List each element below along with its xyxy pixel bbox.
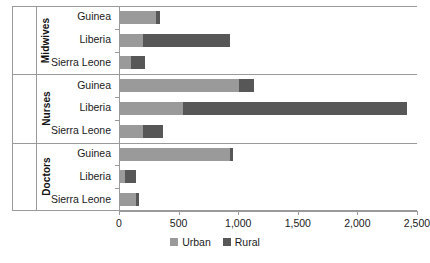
legend-label-urban: Urban — [182, 236, 211, 248]
category-label: Sierra Leone — [51, 57, 111, 68]
bar-row[interactable] — [119, 34, 230, 47]
bar-row[interactable] — [119, 125, 163, 138]
category-tick — [115, 120, 119, 121]
chart-legend: Urban Rural — [0, 236, 430, 248]
bar-segment-urban[interactable] — [119, 102, 183, 115]
category-label: Sierra Leone — [51, 194, 111, 205]
bar-segment-rural[interactable] — [131, 56, 145, 69]
value-axis-tick-label: 2,500 — [404, 217, 430, 229]
category-label: Guinea — [77, 11, 111, 22]
value-axis-tick-label: 500 — [170, 217, 188, 229]
legend-item-urban: Urban — [170, 236, 211, 248]
bar-segment-urban[interactable] — [119, 11, 156, 24]
bar-row[interactable] — [119, 170, 136, 183]
group-label-text: Nurses — [40, 91, 51, 126]
category-tick — [115, 29, 119, 30]
bar-row[interactable] — [119, 102, 407, 115]
bar-segment-rural[interactable] — [125, 170, 136, 183]
bar-row[interactable] — [119, 193, 139, 206]
bar-segment-rural[interactable] — [136, 193, 140, 206]
legend-label-rural: Rural — [235, 236, 260, 248]
value-axis-tick-label: 2,000 — [344, 217, 370, 229]
category-label: Liberia — [79, 102, 111, 113]
category-tick — [115, 188, 119, 189]
bar-segment-urban[interactable] — [119, 34, 143, 47]
group-label-text: Doctors — [40, 158, 51, 196]
bar-row[interactable] — [119, 148, 233, 161]
category-tick — [115, 52, 119, 53]
value-axis-tick-label: 0 — [116, 217, 122, 229]
bar-segment-rural[interactable] — [183, 102, 408, 115]
bar-segment-urban[interactable] — [119, 125, 143, 138]
bar-segment-urban[interactable] — [119, 193, 136, 206]
bar-segment-rural[interactable] — [230, 148, 233, 161]
bar-row[interactable] — [119, 79, 254, 92]
category-tick — [115, 97, 119, 98]
bar-row[interactable] — [119, 56, 145, 69]
bar-segment-rural[interactable] — [143, 125, 163, 138]
group-label-text: Midwives — [40, 18, 51, 63]
stacked-bar-chart: MidwivesGuineaLiberiaSierra LeoneNursesG… — [0, 0, 430, 263]
bar-segment-rural[interactable] — [143, 34, 230, 47]
bar-row[interactable] — [119, 11, 160, 24]
bar-segment-urban[interactable] — [119, 79, 239, 92]
bar-segment-rural[interactable] — [239, 79, 254, 92]
category-label: Liberia — [79, 171, 111, 182]
category-tick — [115, 165, 119, 166]
legend-item-rural: Rural — [223, 236, 260, 248]
category-label: Guinea — [77, 80, 111, 91]
value-axis-line — [119, 211, 417, 212]
legend-swatch-urban-icon — [170, 238, 178, 246]
bar-segment-urban[interactable] — [119, 148, 230, 161]
category-label: Sierra Leone — [51, 125, 111, 136]
value-axis-tick-label: 1,500 — [285, 217, 311, 229]
category-label: Liberia — [79, 34, 111, 45]
category-label: Guinea — [77, 148, 111, 159]
legend-swatch-rural-icon — [223, 238, 231, 246]
value-axis-tick — [417, 211, 418, 215]
bar-segment-rural[interactable] — [156, 11, 160, 24]
bar-segment-urban[interactable] — [119, 56, 131, 69]
value-axis-tick-label: 1,000 — [225, 217, 251, 229]
